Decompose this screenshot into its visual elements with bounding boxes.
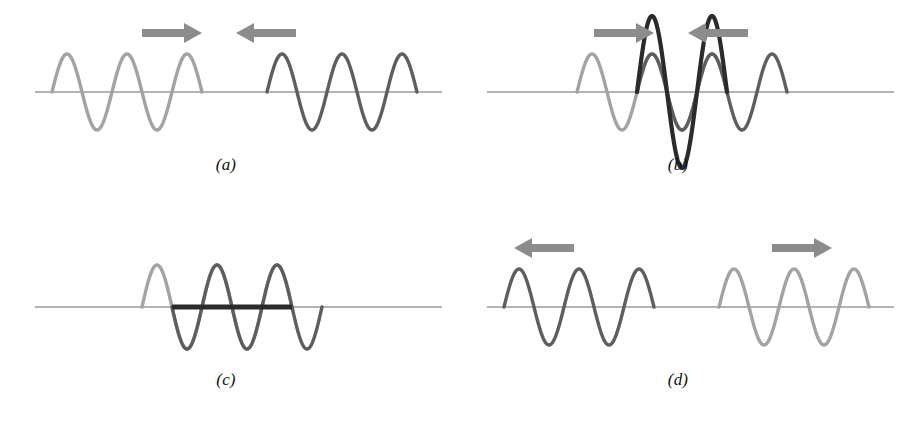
panel-d-label: (d) <box>452 370 904 390</box>
arrow-right-icon <box>772 238 832 258</box>
panel-c: (c) <box>0 215 452 429</box>
panel-a-label: (a) <box>0 155 452 175</box>
panel-a-canvas <box>0 0 452 214</box>
panel-b-canvas <box>452 0 904 214</box>
panel-c-label: (c) <box>0 370 452 390</box>
arrow-left-icon <box>236 23 296 43</box>
panel-b-label: (b) <box>452 155 904 175</box>
wave-interference-figure: (a) (b) (c) (d) <box>0 0 905 429</box>
arrow-left-icon <box>514 238 574 258</box>
panel-d: (d) <box>452 215 904 429</box>
arrow-right-icon <box>142 23 202 43</box>
panel-a: (a) <box>0 0 452 214</box>
panel-c-canvas <box>0 215 452 429</box>
panel-d-canvas <box>452 215 904 429</box>
panel-b: (b) <box>452 0 904 214</box>
